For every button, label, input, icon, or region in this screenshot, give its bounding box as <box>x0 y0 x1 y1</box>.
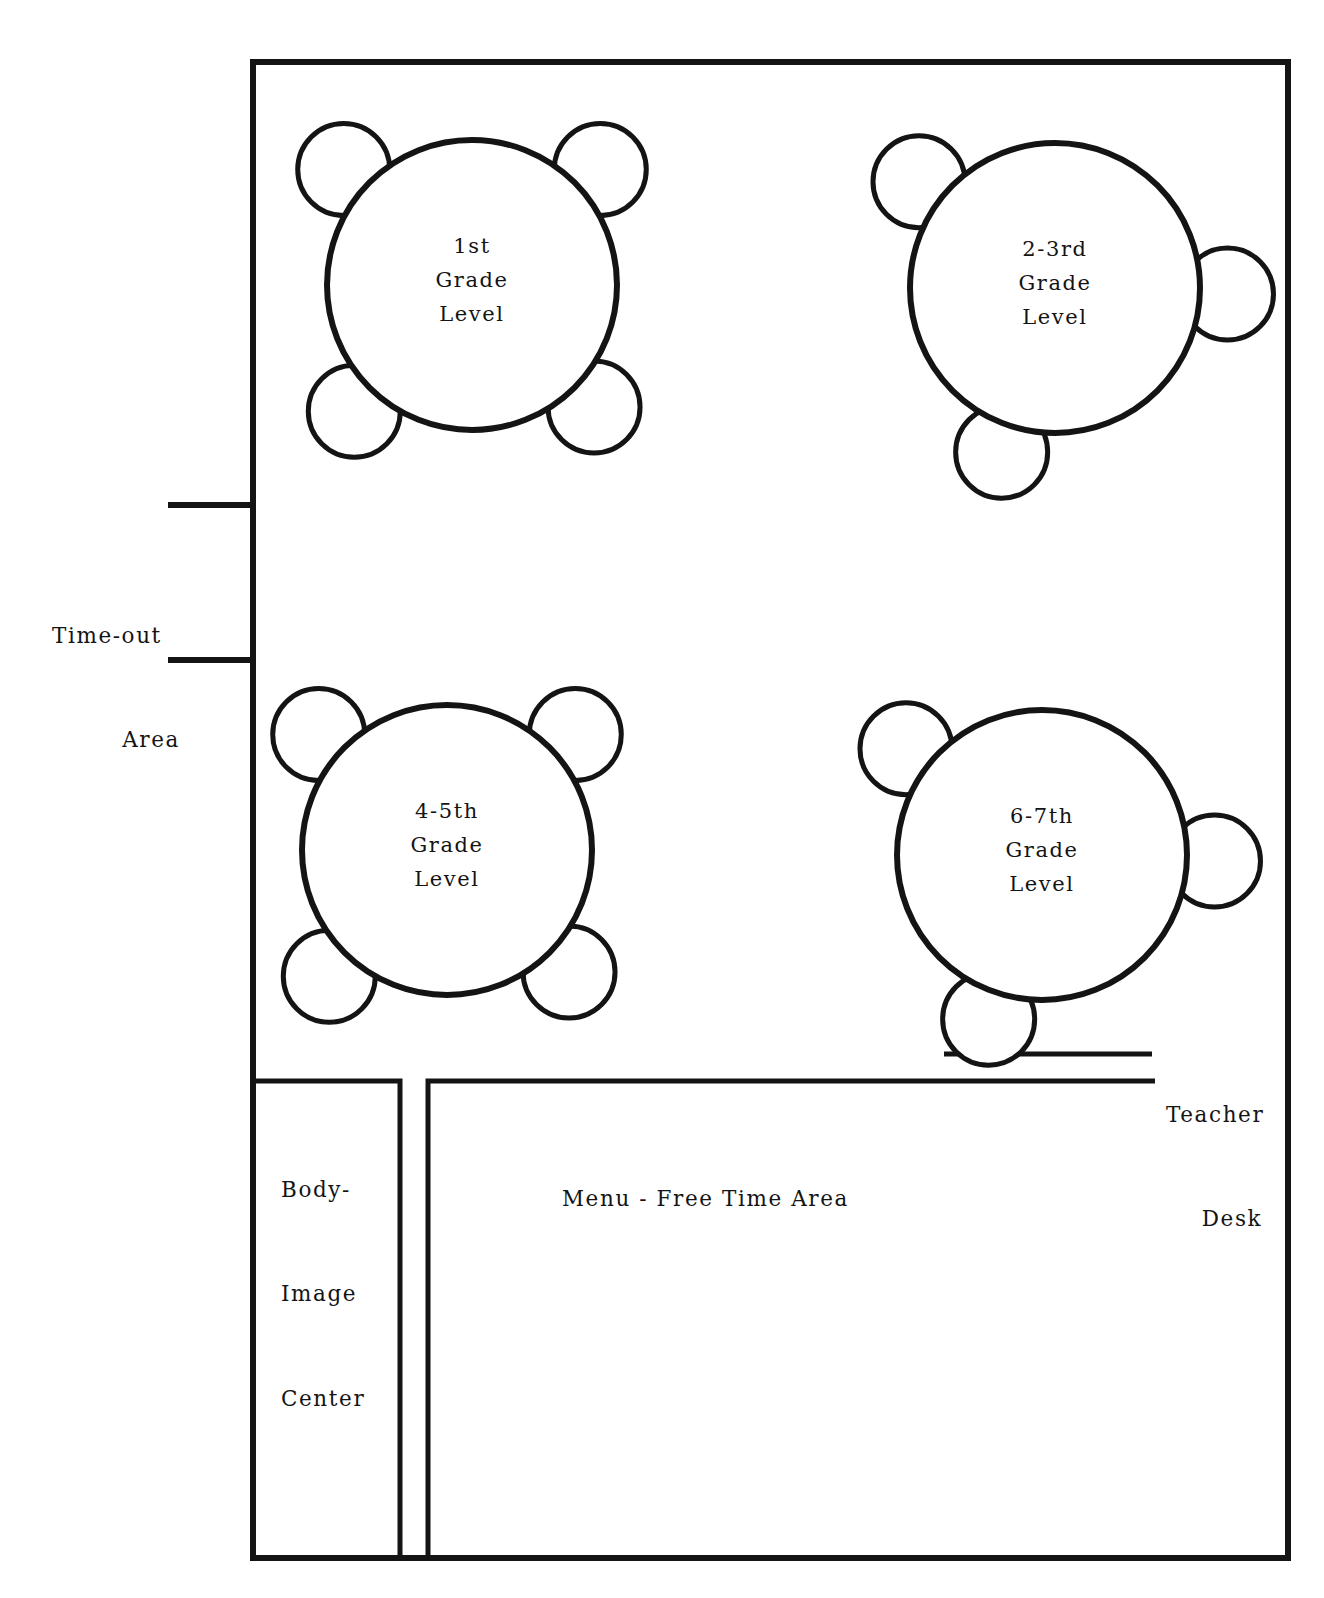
classroom-floor-plan: 1stGradeLevel2-3rdGradeLevel4-5thGradeLe… <box>0 0 1324 1598</box>
time-out-area-label: Time-out Area <box>52 549 242 828</box>
body-image-center-label: Body- Image Center <box>281 1103 401 1486</box>
table-4-5th-grade-label: 4-5thGradeLevel <box>327 794 567 896</box>
table-6-7th-grade-label-line-1: 6-7th <box>922 799 1162 833</box>
table-6-7th-grade-label: 6-7thGradeLevel <box>922 799 1162 901</box>
table-4-5th-grade-label-line-3: Level <box>327 862 567 896</box>
table-1st-grade-label-line-2: Grade <box>352 263 592 297</box>
menu-free-time-area-label: Menu - Free Time Area <box>562 1112 982 1286</box>
menu-free-time-area-label-line-1: Menu - Free Time Area <box>562 1182 982 1217</box>
body-image-center-label-line-3: Center <box>281 1382 401 1417</box>
table-4-5th-grade-label-line-2: Grade <box>327 828 567 862</box>
teacher-desk-label-line-1: Teacher <box>1166 1098 1316 1133</box>
time-out-area-label-line-2: Area <box>52 723 242 758</box>
table-2-3rd-grade-label-line-1: 2-3rd <box>935 232 1175 266</box>
time-out-area-label-line-1: Time-out <box>52 619 242 654</box>
body-image-center-label-line-2: Image <box>281 1277 401 1312</box>
table-2-3rd-grade-label-line-2: Grade <box>935 266 1175 300</box>
table-1st-grade-label-line-1: 1st <box>352 229 592 263</box>
table-2-3rd-grade-label-line-3: Level <box>935 300 1175 334</box>
teacher-desk-label-line-2: Desk <box>1166 1202 1316 1237</box>
table-4-5th-grade-label-line-1: 4-5th <box>327 794 567 828</box>
table-1st-grade-label-line-3: Level <box>352 297 592 331</box>
table-1st-grade-label: 1stGradeLevel <box>352 229 592 331</box>
table-2-3rd-grade-label: 2-3rdGradeLevel <box>935 232 1175 334</box>
table-6-7th-grade-label-line-3: Level <box>922 867 1162 901</box>
body-image-center-label-line-1: Body- <box>281 1173 401 1208</box>
teacher-desk-label: Teacher Desk <box>1166 1028 1316 1307</box>
table-6-7th-grade-label-line-2: Grade <box>922 833 1162 867</box>
